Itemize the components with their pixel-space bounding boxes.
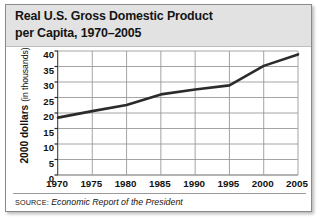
y-tick-label: 10 <box>30 143 54 153</box>
source-note: SOURCE: Economic Report of the President <box>15 197 183 207</box>
chart-axes <box>57 51 298 175</box>
data-series-line <box>58 54 298 117</box>
source-label: SOURCE: <box>15 198 49 207</box>
y-axis-ticks <box>55 51 59 175</box>
x-tick-label: 2005 <box>277 179 312 189</box>
plot-region: 2000 dollars (in thousands) 051015202530… <box>6 47 311 212</box>
chart-title-band: Real U.S. Gross Domestic Product per Cap… <box>6 5 311 47</box>
source-text: Economic Report of the President <box>51 197 183 207</box>
y-tick-label: 20 <box>30 112 54 122</box>
page-title: Real U.S. Gross Domestic Product per Cap… <box>15 8 295 41</box>
y-axis-tick-labels: 0510152025303540 <box>30 51 54 175</box>
source-divider <box>13 193 306 194</box>
x-axis-tick-labels: 19701975198019851990199520002005 <box>57 179 297 193</box>
y-tick-label: 30 <box>30 81 54 91</box>
y-tick-label: 15 <box>30 128 54 138</box>
y-tick-label: 5 <box>30 159 54 169</box>
y-tick-label: 40 <box>30 50 54 60</box>
y-tick-label: 25 <box>30 97 54 107</box>
horizontal-gridlines <box>58 51 298 175</box>
chart-figure: Real U.S. Gross Domestic Product per Cap… <box>5 4 312 212</box>
y-axis-label-unit: (in thousands) <box>20 47 30 101</box>
chart-plot-svg <box>58 51 298 175</box>
y-axis-label: 2000 dollars (in thousands) <box>19 41 30 171</box>
y-tick-label: 35 <box>30 66 54 76</box>
y-axis-label-main: 2000 dollars <box>19 105 30 164</box>
